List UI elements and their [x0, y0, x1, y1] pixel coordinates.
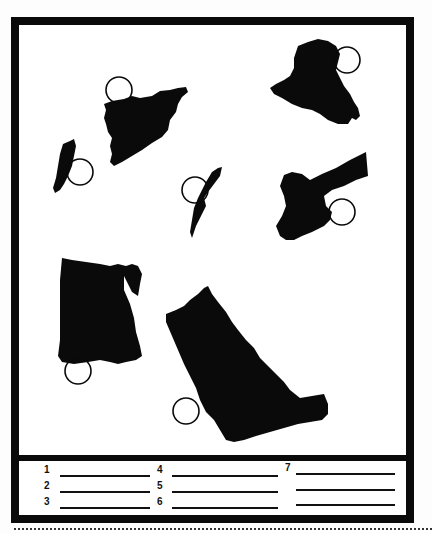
- answer-blank-3[interactable]: 3: [44, 496, 154, 510]
- blank-number: 6: [157, 496, 163, 507]
- blank-line[interactable]: [172, 491, 278, 493]
- blank-line[interactable]: [172, 475, 278, 477]
- blank-number: 1: [44, 464, 50, 475]
- jordan-circle-marker: [329, 199, 355, 225]
- answer-blank-9[interactable]: [285, 493, 397, 507]
- blank-line[interactable]: [60, 475, 150, 477]
- lebanon-circle-marker: [67, 159, 93, 185]
- answer-blank-1[interactable]: 1: [44, 464, 154, 478]
- answer-blank-4[interactable]: 4: [157, 464, 282, 478]
- answer-blank-6[interactable]: 6: [157, 496, 282, 510]
- lebanon-shape[interactable]: [53, 139, 93, 193]
- blank-line[interactable]: [296, 489, 395, 491]
- blank-line[interactable]: [296, 473, 395, 475]
- jordan-shape[interactable]: [276, 152, 368, 240]
- israel-shape[interactable]: [182, 167, 222, 238]
- cut-line: [14, 528, 432, 530]
- answer-blank-7[interactable]: 7: [285, 462, 397, 476]
- saudi-arabia-circle-marker: [173, 398, 199, 424]
- blank-number: 5: [157, 480, 163, 491]
- blank-number: 2: [44, 480, 50, 491]
- blank-line[interactable]: [60, 491, 150, 493]
- blank-number: 7: [285, 462, 291, 473]
- map-silhouettes: [0, 0, 432, 533]
- blank-line[interactable]: [60, 507, 150, 509]
- answer-blank-5[interactable]: 5: [157, 480, 282, 494]
- answer-blank-2[interactable]: 2: [44, 480, 154, 494]
- blank-number: 4: [157, 464, 163, 475]
- syria-circle-marker: [106, 77, 132, 103]
- blank-line[interactable]: [296, 504, 395, 506]
- blank-line[interactable]: [172, 507, 278, 509]
- egypt-shape[interactable]: [58, 258, 142, 384]
- iraq-shape[interactable]: [270, 39, 360, 124]
- blank-number: 3: [44, 496, 50, 507]
- answer-blank-8[interactable]: [285, 478, 397, 492]
- syria-shape[interactable]: [104, 77, 188, 166]
- saudi-arabia-shape[interactable]: [166, 286, 328, 442]
